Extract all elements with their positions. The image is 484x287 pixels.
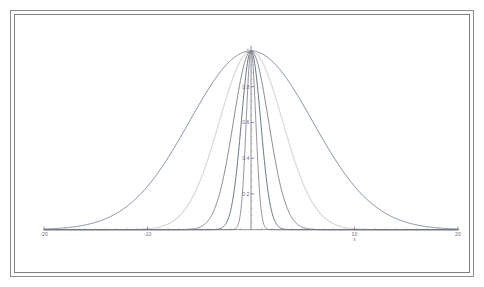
gaussian-curves-chart: -20-1010200.20.40.60.81x [15,15,469,272]
plot-area: -20-1010200.20.40.60.81x [15,15,469,272]
y-tick-label-0.2: 0.2 [242,191,249,197]
figure-frame-outer: -20-1010200.20.40.60.81x [10,10,474,277]
figure-frame-inner: -20-1010200.20.40.60.81x [14,14,470,273]
y-tick-label-0.4: 0.4 [242,155,249,161]
y-tick-label-0.6: 0.6 [242,119,249,125]
y-tick-label-1: 1 [247,48,250,54]
x-tick-label--10: -10 [144,231,152,237]
x-tick-label-20: 20 [455,231,461,237]
x-tick-label--20: -20 [40,231,48,237]
y-tick-label-0.8: 0.8 [242,84,249,90]
axis-layer [44,46,458,230]
x-axis-label: x [353,237,356,242]
